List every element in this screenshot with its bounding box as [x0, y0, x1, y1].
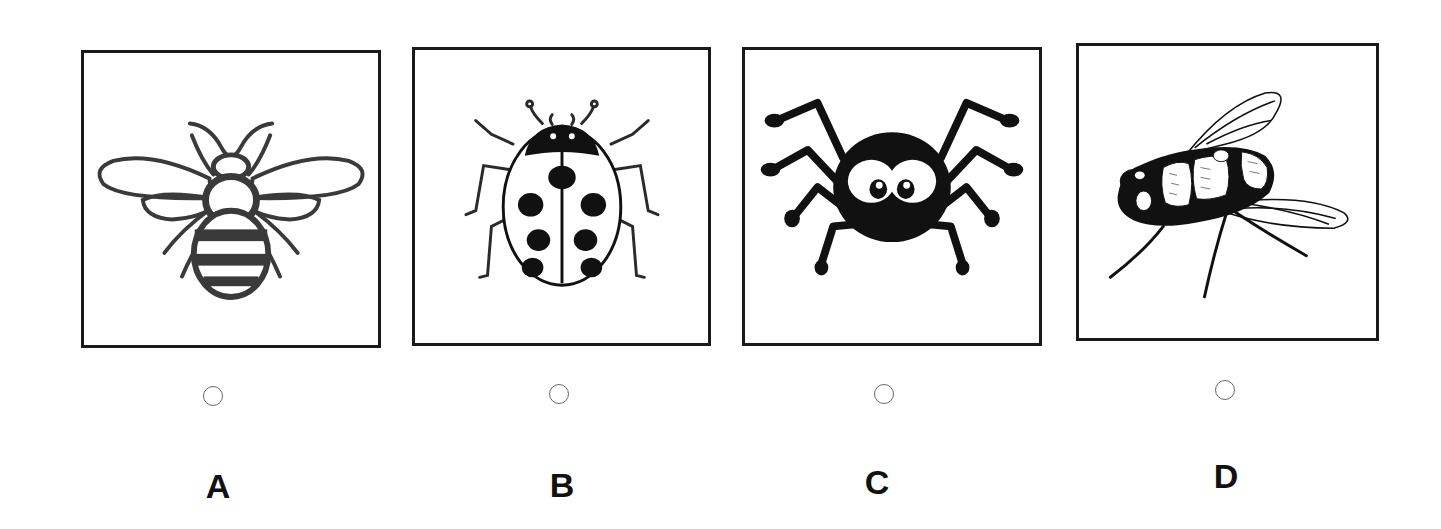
bee-icon — [84, 53, 378, 345]
option-a-image-card[interactable] — [81, 50, 381, 348]
spider-icon — [745, 50, 1039, 343]
fly-icon — [1079, 46, 1376, 338]
option-d-radio[interactable] — [1215, 380, 1235, 400]
option-b-image-card[interactable] — [412, 47, 711, 346]
option-c-radio[interactable] — [874, 384, 894, 404]
option-d-image-card[interactable] — [1076, 43, 1379, 341]
option-d-label: D — [1214, 459, 1239, 493]
option-b-radio[interactable] — [549, 384, 569, 404]
option-b-label: B — [550, 468, 575, 502]
option-a-radio[interactable] — [203, 386, 223, 406]
option-c-label: C — [865, 465, 890, 499]
option-c-image-card[interactable] — [742, 47, 1042, 346]
ladybug-icon — [415, 50, 708, 343]
option-a-label: A — [206, 469, 231, 503]
